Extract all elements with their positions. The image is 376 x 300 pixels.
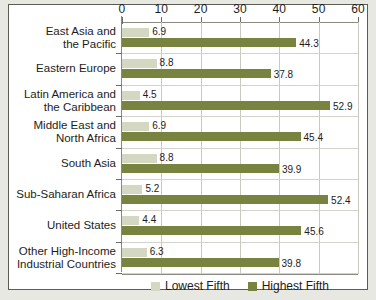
category-label: United States: [6, 219, 116, 232]
legend-swatch-lowest-fifth: [151, 282, 160, 291]
chart-row: East Asia andthe Pacific6.944.3: [0, 22, 376, 53]
bar-value-highest-fifth: 44.3: [299, 39, 318, 49]
bar-value-highest-fifth: 52.4: [331, 196, 350, 206]
category-label-line: Other High-Income: [6, 245, 116, 258]
bar-value-lowest-fifth: 5.2: [145, 184, 159, 194]
bar-value-highest-fifth: 37.8: [274, 70, 293, 80]
legend-label-highest-fifth: Highest Fifth: [262, 279, 329, 293]
bar-lowest-fifth: [122, 185, 142, 194]
bar-lowest-fifth: [122, 91, 140, 100]
bar-lowest-fifth: [122, 216, 139, 225]
category-label: South Asia: [6, 157, 116, 170]
category-label-line: Latin America and: [6, 88, 116, 101]
bar-value-lowest-fifth: 6.3: [150, 247, 164, 257]
category-label-line: Eastern Europe: [6, 62, 116, 75]
category-label-line: East Asia and: [6, 25, 116, 38]
bar-value-highest-fifth: 39.9: [282, 165, 301, 175]
bar-value-highest-fifth: 52.9: [333, 102, 352, 112]
bar-lowest-fifth: [122, 122, 149, 131]
chart-row: Sub-Saharan Africa5.252.4: [0, 179, 376, 210]
chart-row: United States4.445.6: [0, 210, 376, 241]
category-label-line: North Africa: [6, 132, 116, 145]
category-label: Sub-Saharan Africa: [6, 188, 116, 201]
x-axis-tick-label: 20: [181, 2, 221, 16]
category-label: Other High-IncomeIndustrial Countries: [6, 245, 116, 271]
category-label: Middle East andNorth Africa: [6, 119, 116, 145]
category-label-line: Middle East and: [6, 119, 116, 132]
chart-row: South Asia8.839.9: [0, 148, 376, 179]
category-label: East Asia andthe Pacific: [6, 25, 116, 51]
category-label-line: Industrial Countries: [6, 258, 116, 271]
x-axis-tick-label: 40: [259, 2, 299, 16]
x-axis-tick-label: 10: [141, 2, 181, 16]
bar-lowest-fifth: [122, 154, 157, 163]
bar-value-highest-fifth: 45.4: [304, 133, 323, 143]
bar-lowest-fifth: [122, 28, 149, 37]
bar-highest-fifth: [122, 38, 296, 47]
chart-row: Latin America andthe Caribbean4.552.9: [0, 85, 376, 116]
bar-highest-fifth: [122, 195, 328, 204]
bar-value-highest-fifth: 39.8: [282, 259, 301, 269]
bar-value-lowest-fifth: 6.9: [152, 27, 166, 37]
bar-highest-fifth: [122, 132, 301, 141]
chart-legend: Lowest Fifth Highest Fifth: [122, 278, 358, 294]
bar-highest-fifth: [122, 164, 279, 173]
legend-separator: [122, 274, 358, 275]
bar-lowest-fifth: [122, 59, 157, 68]
bar-value-lowest-fifth: 4.5: [143, 90, 157, 100]
x-axis-tick-label: 30: [220, 2, 260, 16]
legend-label-lowest-fifth: Lowest Fifth: [165, 279, 230, 293]
legend-item-highest-fifth: Highest Fifth: [248, 279, 329, 293]
x-axis-tick-label: 0: [102, 2, 142, 16]
bar-lowest-fifth: [122, 248, 147, 257]
bar-value-lowest-fifth: 8.8: [160, 58, 174, 68]
category-label: Eastern Europe: [6, 62, 116, 75]
chart-row: Other High-IncomeIndustrial Countries6.3…: [0, 242, 376, 273]
x-axis-tick-label: 60: [338, 2, 376, 16]
bar-highest-fifth: [122, 69, 271, 78]
category-label-line: the Pacific: [6, 38, 116, 51]
bar-value-lowest-fifth: 4.4: [142, 215, 156, 225]
chart-figure: 0102030405060East Asia andthe Pacific6.9…: [0, 0, 376, 300]
legend-item-lowest-fifth: Lowest Fifth: [151, 279, 230, 293]
bar-value-lowest-fifth: 8.8: [160, 153, 174, 163]
category-label-line: Sub-Saharan Africa: [6, 188, 116, 201]
bar-value-highest-fifth: 45.6: [304, 227, 323, 237]
bar-highest-fifth: [122, 226, 301, 235]
chart-row: Eastern Europe8.837.8: [0, 53, 376, 84]
category-label: Latin America andthe Caribbean: [6, 88, 116, 114]
bar-value-lowest-fifth: 6.9: [152, 121, 166, 131]
bar-highest-fifth: [122, 101, 330, 110]
bar-highest-fifth: [122, 258, 279, 267]
category-label-line: United States: [6, 219, 116, 232]
chart-row: Middle East andNorth Africa6.945.4: [0, 116, 376, 147]
category-label-line: the Caribbean: [6, 101, 116, 114]
x-axis-tick-label: 50: [299, 2, 339, 16]
legend-swatch-highest-fifth: [248, 282, 257, 291]
category-label-line: South Asia: [6, 157, 116, 170]
